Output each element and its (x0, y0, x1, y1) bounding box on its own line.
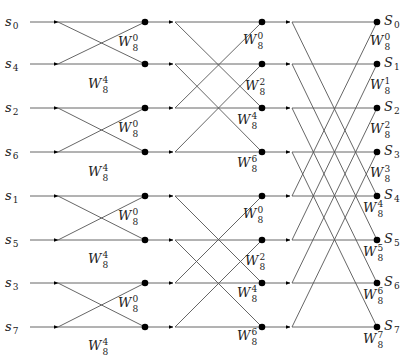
stage-1-node (142, 193, 149, 200)
input-label-s6: s6 (5, 144, 19, 161)
fft-butterfly-diagram: s0s4s2s6s1s5s3s7W08W48W08W48W08W48W08W48… (0, 0, 412, 361)
stage-2-node (259, 61, 266, 68)
twiddle-factor-stage-3-6: W68 (363, 286, 384, 306)
labels: s0s4s2s6s1s5s3s7W08W48W08W48W08W48W08W48… (5, 13, 400, 357)
twiddle-factor-stage-1-7: W48 (88, 337, 109, 357)
twiddle-factor-stage-2-3: W68 (237, 154, 258, 174)
stage-1-node (142, 237, 149, 244)
output-label-S0: S0 (384, 13, 400, 30)
twiddle-factor-stage-1-1: W48 (88, 75, 109, 95)
stage-1-node (142, 19, 149, 26)
output-label-S6: S6 (384, 274, 400, 291)
stage-2-node (259, 149, 266, 156)
twiddle-factor-stage-3-2: W28 (370, 120, 391, 140)
stage-2-node (259, 193, 266, 200)
twiddle-factor-stage-2-2: W48 (237, 111, 258, 131)
butterfly-wires (30, 22, 377, 327)
twiddle-factor-stage-3-0: W08 (370, 32, 391, 52)
stage-3-node (374, 105, 381, 112)
input-label-s0: s0 (5, 14, 19, 31)
stage-1-node (142, 149, 149, 156)
output-label-S4: S4 (384, 187, 400, 204)
stage-1-node (142, 280, 149, 287)
input-label-s5: s5 (5, 232, 19, 249)
twiddle-factor-stage-3-1: W18 (370, 76, 391, 96)
stage-3-node (374, 19, 381, 26)
stage-3-node (374, 61, 381, 68)
stage-1-node (142, 105, 149, 112)
output-label-S2: S2 (384, 99, 400, 116)
output-label-S3: S3 (384, 143, 400, 160)
twiddle-factor-stage-1-5: W48 (88, 250, 109, 270)
stage-2-node (259, 105, 266, 112)
twiddle-factor-stage-2-6: W48 (237, 284, 258, 304)
input-label-s7: s7 (5, 319, 19, 336)
stage-2-node (259, 19, 266, 26)
stage-2-node (259, 237, 266, 244)
output-label-S7: S7 (384, 318, 400, 335)
twiddle-factor-stage-1-2: W08 (118, 119, 139, 139)
stage-1-node (142, 61, 149, 68)
stage-1-node (142, 324, 149, 331)
twiddle-factor-stage-2-4: W08 (243, 205, 264, 225)
input-label-s1: s1 (5, 188, 18, 205)
stage-2-node (259, 324, 266, 331)
input-label-s3: s3 (5, 275, 19, 292)
output-label-S1: S1 (384, 55, 400, 72)
twiddle-factor-stage-3-4: W48 (363, 199, 384, 219)
twiddle-factor-stage-3-7: W78 (363, 330, 384, 350)
twiddle-factor-stage-3-3: W38 (370, 164, 391, 184)
twiddle-factor-stage-1-0: W08 (118, 33, 139, 53)
twiddle-factor-stage-2-0: W08 (243, 31, 264, 51)
twiddle-factor-stage-1-4: W08 (118, 207, 139, 227)
twiddle-factor-stage-1-3: W48 (88, 163, 109, 183)
output-label-S5: S5 (384, 231, 400, 248)
stage-3-node (374, 149, 381, 156)
input-label-s2: s2 (5, 100, 18, 117)
stage-2-node (259, 280, 266, 287)
twiddle-factor-stage-1-6: W08 (118, 294, 139, 314)
twiddle-factor-stage-2-7: W68 (237, 327, 258, 347)
input-label-s4: s4 (5, 56, 19, 73)
